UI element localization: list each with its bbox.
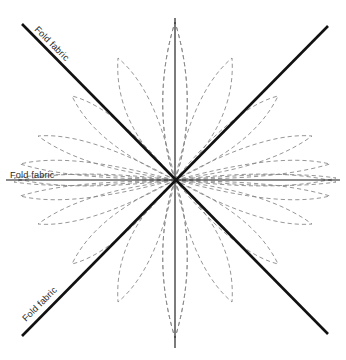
- petal: [175, 160, 330, 180]
- petal: [175, 180, 278, 264]
- pattern-canvas: Fold fabric Fold fabric Fold fabric: [0, 0, 346, 360]
- fold-axis-group: [6, 18, 340, 348]
- fold-label-group: Fold fabric Fold fabric Fold fabric: [10, 24, 71, 323]
- petal: [118, 180, 175, 302]
- petal: [72, 180, 175, 264]
- diagonal-top-left-fold-label: Fold fabric: [33, 24, 72, 63]
- petal: [175, 180, 330, 200]
- petal: [72, 96, 175, 180]
- petal: [20, 180, 175, 200]
- petal-quadrant-upper-right: [163, 22, 336, 185]
- quilting-pattern-diagram: Fold fabric Fold fabric Fold fabric: [0, 0, 346, 360]
- petal: [175, 58, 232, 180]
- petal: [175, 96, 278, 180]
- petal-quadrant-lower-right: [163, 175, 336, 338]
- horizontal-fold-label: Fold fabric: [10, 170, 55, 180]
- petal: [118, 58, 175, 180]
- petal: [175, 180, 232, 302]
